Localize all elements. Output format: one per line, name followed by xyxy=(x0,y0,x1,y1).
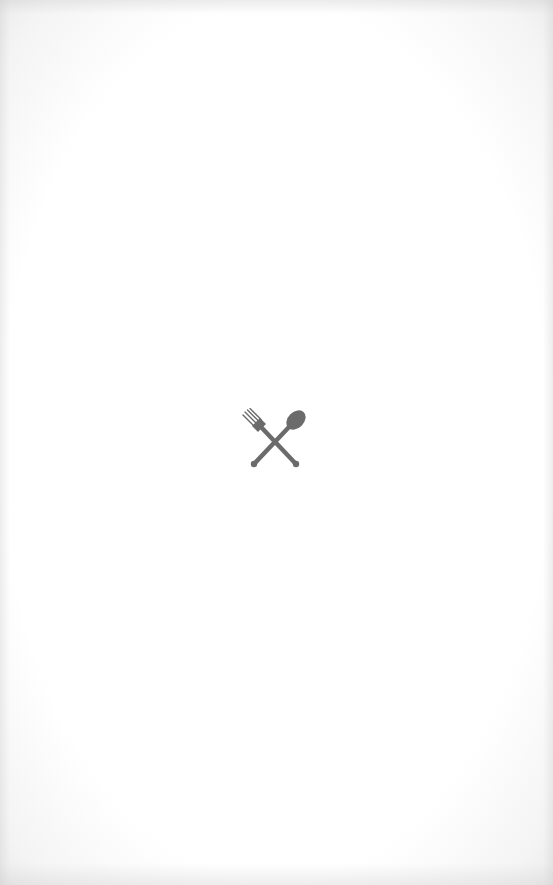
right-edge-shade xyxy=(543,0,553,885)
splash-screen xyxy=(0,0,553,885)
top-edge-shade xyxy=(0,0,553,14)
left-edge-shade xyxy=(0,0,10,885)
bottom-edge-shade xyxy=(0,863,553,885)
fork-and-spoon-icon xyxy=(242,408,308,470)
